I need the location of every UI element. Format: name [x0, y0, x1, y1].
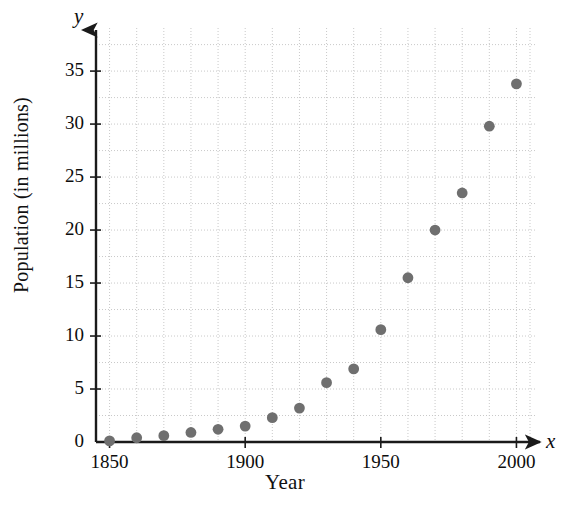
y-axis-title: Population (in millions)	[10, 97, 32, 293]
data-point-series	[104, 78, 522, 446]
data-point	[158, 430, 169, 441]
y-tick-label: 25	[38, 165, 84, 187]
data-point	[186, 427, 197, 438]
data-point	[131, 432, 142, 443]
y-tick-label: 15	[38, 271, 84, 293]
data-point	[457, 188, 468, 199]
y-tick-label: 5	[38, 377, 84, 399]
x-axis-title: Year	[0, 470, 570, 495]
chart-gridlines	[96, 28, 536, 442]
data-point	[430, 225, 441, 236]
chart-axes	[96, 30, 540, 442]
data-point	[348, 363, 359, 374]
x-axis-letter: x	[546, 429, 555, 454]
population-scatter-chart: 05101520253035 1850190019502000 y x Year…	[0, 0, 570, 511]
y-tick-label: 20	[38, 218, 84, 240]
y-tick-label: 10	[38, 324, 84, 346]
data-point	[484, 121, 495, 132]
data-point	[403, 272, 414, 283]
chart-canvas	[0, 0, 570, 511]
y-tick-label: 0	[38, 430, 84, 452]
data-point	[104, 436, 115, 447]
data-point	[213, 424, 224, 435]
y-axis-title-wrapper: Population (in millions)	[10, 30, 40, 360]
data-point	[511, 78, 522, 89]
data-point	[240, 421, 251, 432]
data-point	[321, 377, 332, 388]
data-point	[375, 324, 386, 335]
y-axis-letter: y	[74, 4, 83, 29]
data-point	[267, 412, 278, 423]
y-tick-label: 35	[38, 59, 84, 81]
y-tick-label: 30	[38, 112, 84, 134]
data-point	[294, 403, 305, 414]
